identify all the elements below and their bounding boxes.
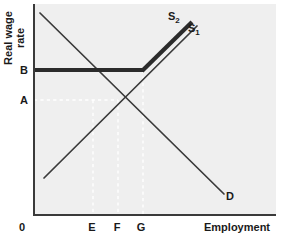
x-tick-label-F: F	[110, 221, 124, 233]
dashed-guides	[34, 70, 143, 215]
supply-curve-1-label: S1	[188, 22, 200, 37]
supply-curve-1-label-subscript: 1	[195, 28, 199, 37]
x-tick-label-E: E	[85, 221, 99, 233]
supply-curve-2-label-subscript: 2	[175, 16, 179, 25]
demand-curve	[40, 13, 224, 194]
labour-market-diagram: Real wage rate Employment 0 E F G A B S2…	[0, 0, 287, 241]
y-tick-label-A: A	[17, 94, 31, 106]
supply-curve-2-label: S2	[168, 10, 180, 25]
supply-curve-1	[44, 26, 197, 178]
axis-origin-label: 0	[15, 221, 29, 233]
axes	[33, 4, 276, 215]
x-tick-label-G: G	[134, 221, 148, 233]
y-axis-title: Real wage rate	[2, 6, 26, 70]
y-axis-title-line1: Real wage	[2, 11, 14, 65]
chart-canvas	[0, 0, 287, 241]
y-tick-label-B: B	[17, 64, 31, 76]
x-axis-title: Employment	[204, 221, 270, 233]
demand-curve-label: D	[226, 190, 234, 202]
y-axis-title-line2: rate	[14, 28, 26, 48]
supply-curve-2-sloped-segment	[142, 22, 192, 71]
